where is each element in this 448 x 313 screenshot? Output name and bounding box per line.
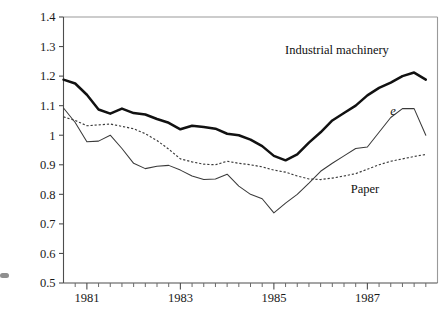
y-tick-label: 1.4 xyxy=(40,10,56,24)
x-axis-ticks: 1981198319851987 xyxy=(74,283,425,305)
y-tick-label: 0.6 xyxy=(40,247,56,261)
y-axis-ticks: 1.41.31.21.110.90.80.70.60.5 xyxy=(40,10,64,290)
y-tick-label: 1.2 xyxy=(40,69,56,83)
y-tick-label: 0.8 xyxy=(40,188,56,202)
y-tick-label: 1.3 xyxy=(40,40,56,54)
series-line-industrial-machinery xyxy=(64,73,426,161)
series-line-paper xyxy=(64,117,426,180)
y-tick-label: 1.1 xyxy=(40,99,56,113)
series-label-e: e xyxy=(390,104,396,118)
series-annotations: Industrial machineryePaper xyxy=(285,43,396,196)
y-tick-label: 0.5 xyxy=(40,276,56,290)
series-line-e xyxy=(64,108,426,213)
x-tick-label: 1987 xyxy=(355,291,380,305)
x-tick-label: 1985 xyxy=(261,291,286,305)
line-chart-canvas: 1.41.31.21.110.90.80.70.60.5 19811983198… xyxy=(0,0,448,313)
y-tick-label: 0.7 xyxy=(40,217,56,231)
series-label-industrial-machinery: Industrial machinery xyxy=(285,43,390,57)
y-tick-label: 1 xyxy=(49,129,55,143)
y-tick-label: 0.9 xyxy=(40,158,56,172)
chart-figure: 1.41.31.21.110.90.80.70.60.5 19811983198… xyxy=(0,0,448,313)
x-tick-label: 1983 xyxy=(168,291,193,305)
page-edge-artifact xyxy=(0,273,9,278)
series-label-paper: Paper xyxy=(351,182,380,196)
x-tick-label: 1981 xyxy=(74,291,99,305)
